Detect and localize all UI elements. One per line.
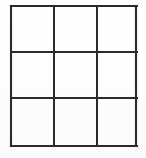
grid-cell-r1-c1[interactable]	[12, 7, 53, 51]
grid-cell-r2-c2[interactable]	[55, 53, 96, 97]
grid-cell-r3-c1[interactable]	[12, 99, 53, 146]
grid-cell-r2-c3[interactable]	[98, 53, 136, 97]
grid-cell-r3-c3[interactable]	[98, 99, 136, 146]
grid-cell-r1-c2[interactable]	[55, 7, 96, 51]
grid-figure	[0, 0, 146, 158]
grid-cell-r2-c1[interactable]	[12, 53, 53, 97]
grid-cell-r1-c3[interactable]	[98, 7, 136, 51]
grid-cell-r3-c2[interactable]	[55, 99, 96, 146]
figure-canvas	[0, 0, 146, 158]
